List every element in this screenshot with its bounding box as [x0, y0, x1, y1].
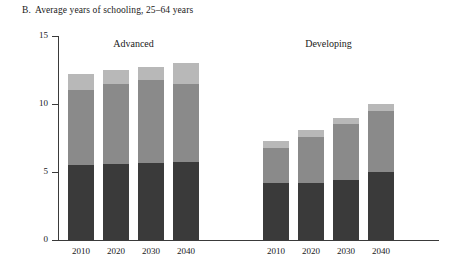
- x-tick-label: 2030: [326, 246, 366, 256]
- x-tick-label: 2020: [96, 246, 136, 256]
- bar-advanced-2020[interactable]: [103, 0, 129, 240]
- y-tick-label: 5: [26, 166, 48, 176]
- bar-segment-medium: [103, 84, 129, 164]
- bar-segment-low: [298, 183, 324, 240]
- bar-segment-high: [173, 63, 199, 83]
- y-tick-label: 0: [26, 234, 48, 244]
- bar-segment-high: [368, 104, 394, 111]
- x-tick-label: 2010: [61, 246, 101, 256]
- x-tick-label: 2010: [256, 246, 296, 256]
- bar-segment-medium: [263, 148, 289, 183]
- bar-segment-high: [68, 74, 94, 90]
- bar-stack: [263, 141, 289, 240]
- y-tick-label: 15: [26, 30, 48, 40]
- bar-advanced-2010[interactable]: [68, 0, 94, 240]
- x-tick-label: 2040: [166, 246, 206, 256]
- bar-developing-2010[interactable]: [263, 0, 289, 240]
- bar-stack: [333, 118, 359, 240]
- bar-stack: [103, 70, 129, 240]
- y-tick: [52, 104, 58, 105]
- bar-segment-low: [333, 180, 359, 240]
- bar-advanced-2040[interactable]: [173, 0, 199, 240]
- bar-stack: [138, 67, 164, 240]
- bar-segment-medium: [368, 111, 394, 172]
- bar-developing-2040[interactable]: [368, 0, 394, 240]
- bar-segment-low: [103, 164, 129, 240]
- bar-segment-low: [173, 162, 199, 240]
- bar-segment-medium: [333, 124, 359, 180]
- bar-stack: [173, 63, 199, 240]
- bar-segment-medium: [173, 84, 199, 163]
- bar-developing-2030[interactable]: [333, 0, 359, 240]
- bar-segment-low: [68, 165, 94, 240]
- x-tick-label: 2040: [361, 246, 401, 256]
- bar-segment-medium: [68, 90, 94, 165]
- y-tick: [52, 172, 58, 173]
- bar-stack: [298, 130, 324, 240]
- bar-developing-2020[interactable]: [298, 0, 324, 240]
- x-tick-label: 2030: [131, 246, 171, 256]
- chart-container: B.Average years of schooling, 25–64 year…: [0, 0, 457, 276]
- x-axis-line: [58, 240, 439, 241]
- bar-segment-low: [368, 172, 394, 240]
- bar-stack: [368, 104, 394, 240]
- bar-segment-high: [103, 70, 129, 84]
- bar-segment-medium: [138, 80, 164, 163]
- bar-segment-low: [138, 163, 164, 240]
- bar-segment-high: [263, 141, 289, 148]
- panel-letter: B.: [22, 5, 31, 15]
- bar-segment-medium: [298, 137, 324, 183]
- bar-advanced-2030[interactable]: [138, 0, 164, 240]
- x-tick-label: 2020: [291, 246, 331, 256]
- y-tick: [52, 36, 58, 37]
- bar-stack: [68, 74, 94, 240]
- bar-segment-high: [138, 67, 164, 80]
- bar-segment-high: [298, 130, 324, 137]
- y-tick: [52, 240, 58, 241]
- bar-segment-high: [333, 118, 359, 125]
- bar-segment-low: [263, 183, 289, 240]
- y-tick-label: 10: [26, 98, 48, 108]
